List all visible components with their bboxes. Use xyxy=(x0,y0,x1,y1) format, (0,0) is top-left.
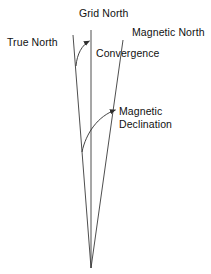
convergence-arrow xyxy=(76,41,90,66)
magnetic-north-line xyxy=(91,40,123,268)
label-convergence: Convergence xyxy=(96,47,160,60)
label-magnetic-declination-line1: Magnetic xyxy=(119,105,191,118)
north-reference-diagram: True North Grid North Magnetic North Con… xyxy=(0,0,211,274)
label-magnetic-declination-line2: Declination xyxy=(119,118,191,131)
label-magnetic-north: Magnetic North xyxy=(132,26,205,39)
label-true-north: True North xyxy=(7,36,58,49)
label-magnetic-declination: Magnetic Declination xyxy=(119,105,191,131)
label-grid-north: Grid North xyxy=(79,7,128,20)
